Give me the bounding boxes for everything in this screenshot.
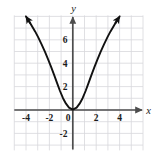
x-axis-label: x: [145, 105, 151, 116]
x-tick-label--2: -2: [45, 113, 53, 123]
y-tick-label-4: 4: [63, 59, 68, 69]
y-tick-label-6: 6: [63, 35, 68, 45]
x-tick-label--4: -4: [22, 113, 30, 123]
y-axis-label: y: [70, 3, 76, 14]
y-tick-label-2: 2: [63, 82, 68, 92]
y-tick-label--2: -2: [60, 129, 68, 139]
origin-label: 0: [66, 113, 71, 123]
parabola-graph-figure: -4 -2 0 2 4 -2 2 4 6 x y: [0, 0, 155, 162]
x-tick-label-2: 2: [94, 113, 99, 123]
coordinate-plane-chart: -4 -2 0 2 4 -2 2 4 6 x y: [0, 0, 155, 162]
chart-background: [0, 0, 155, 162]
x-tick-label-4: 4: [117, 113, 122, 123]
